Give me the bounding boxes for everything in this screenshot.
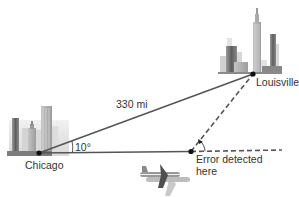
distance-label: 330 mi [116, 98, 148, 110]
flight-path-diagram: 330 mi 10° Chicago Louisville Error dete… [0, 0, 299, 197]
error-point [188, 149, 193, 154]
chicago-label: Chicago [25, 159, 64, 171]
louisville-skyline-icon [218, 8, 282, 74]
chicago-angle-arc [72, 141, 73, 153]
angle-label: 10° [75, 141, 91, 153]
louisville-label: Louisville [256, 76, 299, 88]
louisville-point [250, 71, 255, 76]
error-label-line1: Error detected [196, 153, 263, 165]
chicago-point [36, 150, 41, 155]
chicago-skyline-icon [7, 106, 69, 156]
error-label-line2: here [196, 165, 217, 177]
airplane-icon [140, 164, 190, 196]
